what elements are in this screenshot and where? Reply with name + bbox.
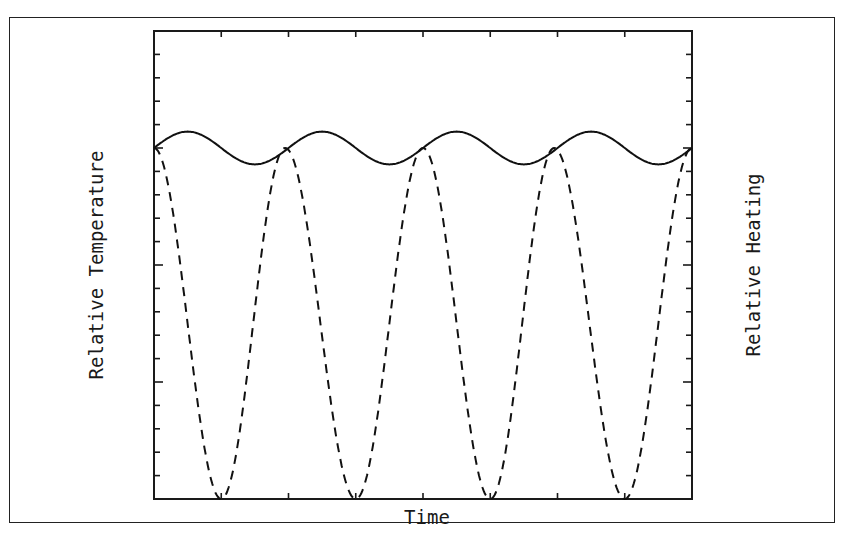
- x-axis-label: Time: [404, 506, 450, 528]
- y-axis-left-label: Relative Temperature: [85, 151, 107, 380]
- plot-area: [154, 31, 692, 499]
- heating-curve: [154, 148, 692, 499]
- chart: Time Relative Temperature Relative Heati…: [0, 0, 851, 547]
- y-axis-right-label: Relative Heating: [742, 173, 764, 356]
- axis-ticks: [154, 31, 692, 499]
